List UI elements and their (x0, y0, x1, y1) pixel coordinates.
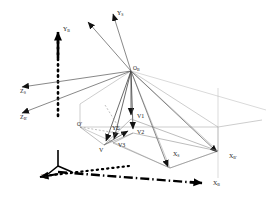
axis-label-yb: YB (63, 26, 70, 32)
figure-canvas (0, 0, 269, 202)
vector-label-v3: V3 (118, 142, 125, 148)
axis-xb-bold (58, 172, 202, 183)
coordinate-frame-figure: OB O' YB YS ZB ZS ZB' XB XS XB' V1 V2 V3… (0, 0, 269, 202)
vector-label-v1: V1 (137, 113, 144, 119)
axis-zbprime-vector (22, 71, 131, 113)
vector-label-v: V (99, 147, 103, 153)
axis-label-zb: ZB (41, 173, 47, 179)
axis-xbprime-vector (131, 71, 217, 152)
origin-label-ob: OB (133, 66, 140, 72)
origin-label-oprime: O' (77, 122, 82, 128)
base-plane-wireframe (80, 120, 262, 168)
axis-label-ys: YS (117, 10, 124, 16)
vertical-prism-edges (80, 71, 218, 168)
axis-zs-vector (22, 71, 131, 87)
body-frame-tripod (48, 150, 72, 174)
vector-label-ysigma: YΣ (112, 125, 120, 131)
axis-label-zs: ZS (20, 88, 26, 94)
vector-tip-connectors (80, 119, 218, 168)
axis-y-vector (88, 22, 131, 71)
axis-label-zb-prime: ZB' (20, 114, 27, 120)
vector-label-v2: V2 (137, 129, 144, 135)
axis-label-xb-prime: XB' (229, 153, 237, 159)
axis-ys-vector (113, 14, 131, 71)
axis-label-xb: XB (213, 180, 220, 186)
axis-label-xs: XS (173, 151, 180, 157)
